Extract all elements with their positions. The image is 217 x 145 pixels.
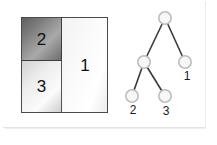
tree-node-label-3: 3 (158, 105, 174, 117)
figure-root: 2 3 1 1 2 3 (0, 0, 217, 145)
tree-node-leaf-1 (179, 56, 191, 68)
partitioned-rectangle: 2 3 1 (21, 17, 108, 113)
partition-cell-1-label: 1 (80, 57, 89, 74)
card-edge-right (205, 4, 206, 129)
partition-cell-1: 1 (63, 18, 107, 112)
tree-node-label-2: 2 (125, 104, 141, 116)
partition-cell-2-label: 2 (37, 31, 46, 48)
partition-cell-3: 3 (22, 61, 62, 112)
tree-node-label-1: 1 (179, 70, 195, 82)
tree-node-leaf-3 (159, 90, 171, 102)
binary-partition-tree: 1 2 3 (113, 6, 205, 121)
tree-nodes (126, 12, 191, 102)
tree-node-inner (138, 56, 150, 68)
card-edge-bottom (5, 128, 206, 129)
partition-cell-2: 2 (22, 18, 62, 61)
tree-edge-root-leaf1 (165, 18, 185, 62)
tree-edge-root-inner (144, 18, 165, 62)
tree-node-root (159, 12, 171, 24)
tree-node-leaf-2 (126, 90, 138, 102)
partition-cell-3-label: 3 (37, 78, 46, 95)
